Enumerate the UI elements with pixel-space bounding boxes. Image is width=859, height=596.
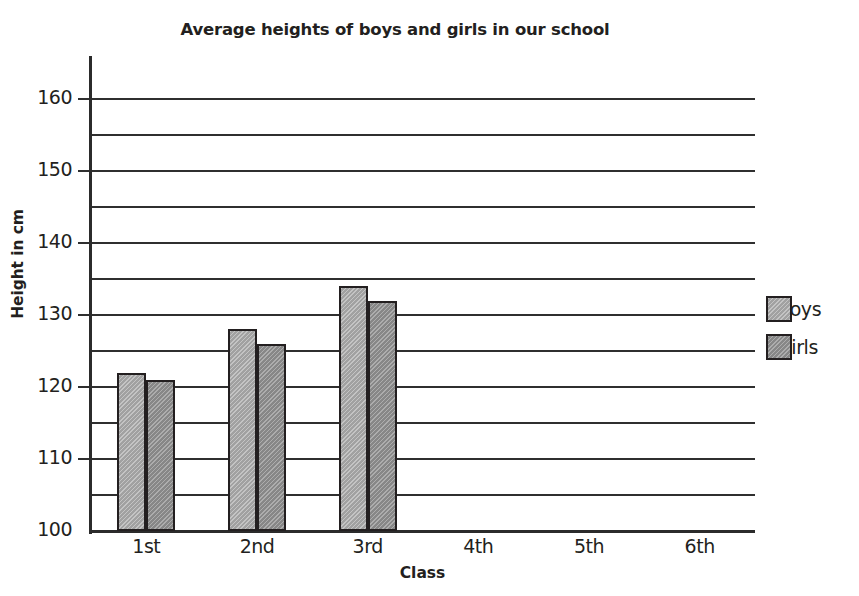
gridline-minor-115 <box>92 422 755 424</box>
x-tick-label-2nd: 2nd <box>212 535 302 557</box>
x-axis-line <box>89 530 755 533</box>
boys-swatch-icon <box>766 296 792 322</box>
y-tick-label-160: 160 <box>14 86 72 108</box>
gridline-minor-155 <box>92 134 755 136</box>
x-axis-title: Class <box>90 564 755 582</box>
y-tick-label-140: 140 <box>14 230 72 252</box>
legend-item-girls: Girls <box>766 330 821 364</box>
gridline-minor-145 <box>92 206 755 208</box>
y-axis-line <box>89 56 92 534</box>
bar-girls-1st <box>146 380 175 531</box>
bar-girls-3rd <box>368 301 397 531</box>
x-tick-label-4th: 4th <box>433 535 523 557</box>
y-tick-label-110: 110 <box>14 446 72 468</box>
bar-boys-3rd <box>339 286 368 531</box>
gridline-major-160 <box>78 98 755 100</box>
bar-girls-2nd <box>257 344 286 531</box>
y-tick-label-130: 130 <box>14 302 72 324</box>
y-tick-label-100: 100 <box>14 518 72 540</box>
x-tick-label-1st: 1st <box>101 535 191 557</box>
y-tick-label-150: 150 <box>14 158 72 180</box>
girls-swatch-icon <box>766 334 792 360</box>
gridline-major-150 <box>78 170 755 172</box>
gridline-major-120 <box>78 386 755 388</box>
gridline-minor-105 <box>92 494 755 496</box>
chart-title: Average heights of boys and girls in our… <box>0 20 790 39</box>
gridline-minor-135 <box>92 278 755 280</box>
bar-boys-2nd <box>228 329 257 531</box>
bar-chart: Average heights of boys and girls in our… <box>0 0 859 596</box>
gridline-major-110 <box>78 458 755 460</box>
x-tick-label-6th: 6th <box>655 535 745 557</box>
gridline-major-130 <box>78 314 755 316</box>
x-tick-label-5th: 5th <box>544 535 634 557</box>
legend-item-boys: Boys <box>766 292 821 326</box>
gridline-minor-125 <box>92 350 755 352</box>
gridline-major-140 <box>78 242 755 244</box>
x-tick-label-3rd: 3rd <box>323 535 413 557</box>
y-tick-label-120: 120 <box>14 374 72 396</box>
bar-boys-1st <box>117 373 146 531</box>
chart-legend: Boys Girls <box>766 292 821 368</box>
